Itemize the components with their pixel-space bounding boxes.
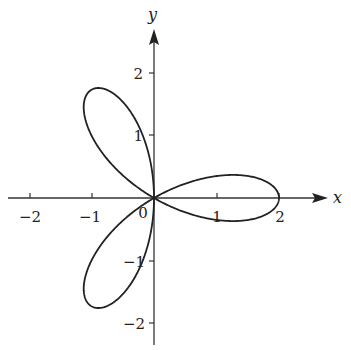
x-tick-label: −2 bbox=[19, 208, 41, 226]
y-tick-label: 1 bbox=[133, 127, 143, 145]
x-axis-label: x bbox=[333, 188, 342, 207]
y-tick-label: 2 bbox=[133, 65, 143, 83]
x-tick-label: 1 bbox=[212, 208, 222, 226]
x-tick-label: −1 bbox=[79, 208, 101, 226]
y-tick-label: −2 bbox=[123, 315, 145, 333]
y-axis-label: y bbox=[147, 5, 158, 24]
polar-rose-plot: −2 −1 1 2 2 1 −1 −2 0 x y bbox=[0, 0, 351, 350]
x-tick-label: 2 bbox=[275, 208, 285, 226]
